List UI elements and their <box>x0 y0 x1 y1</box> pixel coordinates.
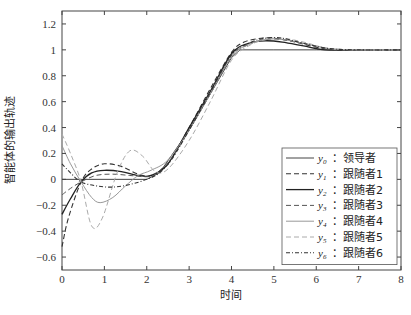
legend: y0：领导者y1：跟随者1y2：跟随者2y3：跟随者3y4：跟随者4y5：跟随者… <box>282 148 397 265</box>
x-tick-label: 3 <box>186 273 192 285</box>
x-tick-label: 7 <box>356 273 362 285</box>
y-tick-label: 0.8 <box>42 70 56 82</box>
x-tick-label: 0 <box>59 273 65 285</box>
legend-label: ：跟随者3 <box>332 198 383 212</box>
legend-label: ：跟随者5 <box>332 230 383 244</box>
x-tick-label: 8 <box>398 273 404 285</box>
y-tick-label: 0.6 <box>42 96 56 108</box>
x-tick-label: 2 <box>144 273 150 285</box>
x-tick-label: 4 <box>229 273 235 285</box>
y-tick-label: 0 <box>51 173 57 185</box>
y-tick-label: 1 <box>51 44 57 56</box>
trajectory-chart: 012345678−0.6−0.4−0.200.20.40.60.811.2 时… <box>0 0 411 315</box>
legend-label: ：跟随者4 <box>332 214 383 228</box>
y-tick-label: −0.4 <box>36 225 56 237</box>
y-tick-label: 0.4 <box>42 122 56 134</box>
legend-label: ：跟随者6 <box>332 246 383 260</box>
y-tick-label: 0.2 <box>42 147 56 159</box>
x-tick-label: 5 <box>271 273 277 285</box>
legend-label: ：跟随者1 <box>332 167 383 181</box>
x-axis-title: 时间 <box>220 289 242 302</box>
legend-label: ：领导者 <box>332 152 376 165</box>
y-tick-label: 1.2 <box>42 18 56 30</box>
x-tick-label: 1 <box>102 273 108 285</box>
y-tick-label: −0.6 <box>36 251 56 263</box>
y-axis-title: 智能体的输出轨迹 <box>3 96 17 184</box>
legend-label: ：跟随者2 <box>332 183 383 197</box>
x-tick-label: 6 <box>314 273 320 285</box>
y-tick-label: −0.2 <box>36 199 56 211</box>
